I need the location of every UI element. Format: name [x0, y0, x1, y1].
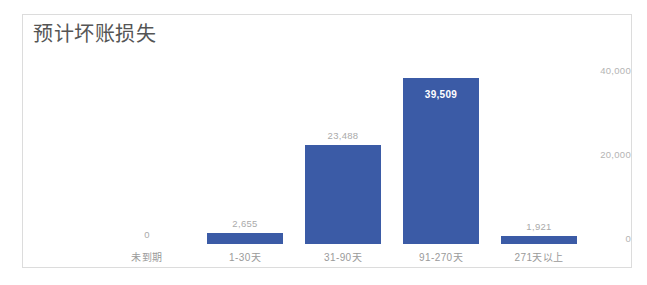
- bar-value-label: 1,921: [491, 221, 587, 232]
- chart-card: 预计坏账损失 40,000 20,000 0 0未到期2,6551-30天23,…: [22, 14, 632, 268]
- x-axis-category-label: 271天以上: [491, 249, 587, 264]
- x-axis-category-label: 91-270天: [393, 249, 489, 264]
- bars-layer: 0未到期2,6551-30天23,48831-90天39,50991-270天1…: [23, 51, 631, 267]
- bar-value-label: 39,509: [403, 89, 479, 100]
- x-axis-category-label: 1-30天: [197, 249, 293, 264]
- bar-rect[interactable]: [403, 78, 479, 244]
- x-axis-category-label: 未到期: [99, 249, 195, 264]
- x-axis-category-label: 31-90天: [295, 249, 391, 264]
- bar-value-label: 0: [99, 229, 195, 240]
- bar-rect[interactable]: [305, 145, 381, 244]
- chart-plot-area: 40,000 20,000 0 0未到期2,6551-30天23,48831-9…: [23, 51, 631, 267]
- chart-title: 预计坏账损失: [33, 21, 156, 47]
- bar-rect[interactable]: [207, 233, 283, 244]
- bar-value-label: 2,655: [197, 218, 293, 229]
- bar-value-label: 23,488: [295, 130, 391, 141]
- bar-rect[interactable]: [501, 236, 577, 244]
